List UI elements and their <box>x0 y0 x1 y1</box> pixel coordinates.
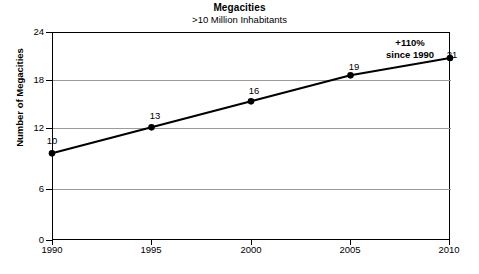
gridline-18 <box>53 80 451 81</box>
y-tick-mark-18 <box>46 80 52 81</box>
y-tick-mark-12 <box>46 128 52 129</box>
x-tick-label-1990: 1990 <box>22 244 82 255</box>
growth-annotation-line2: since 1990 <box>366 49 454 61</box>
point-label-2005: 19 <box>334 62 374 72</box>
point-label-1990: 10 <box>32 136 72 146</box>
growth-annotation-line1: +110% <box>366 37 454 49</box>
growth-annotation: +110% since 1990 <box>366 37 454 60</box>
y-tick-label-24: 24 <box>4 27 44 37</box>
point-label-1995: 13 <box>135 111 175 121</box>
y-tick-mark-24 <box>46 32 52 33</box>
y-tick-label-6: 6 <box>4 184 44 194</box>
megacities-line-chart: Megacities >10 Million Inhabitants Numbe… <box>0 0 479 274</box>
y-tick-label-18: 18 <box>4 75 44 85</box>
plot-area <box>52 32 450 240</box>
point-label-2000: 16 <box>234 86 274 96</box>
x-tick-label-2000: 2000 <box>221 244 281 255</box>
x-tick-label-1995: 1995 <box>121 244 181 255</box>
gridline-12 <box>53 128 451 129</box>
gridline-6 <box>53 189 451 190</box>
y-tick-label-12: 12 <box>4 123 44 133</box>
chart-subtitle: >10 Million Inhabitants <box>0 14 479 26</box>
x-tick-label-2010: 2010 <box>419 244 479 255</box>
y-axis-title: Number of Megacities <box>14 33 25 163</box>
y-tick-mark-6 <box>46 189 52 190</box>
chart-title-block: Megacities >10 Million Inhabitants <box>0 2 479 26</box>
x-tick-label-2005: 2005 <box>320 244 380 255</box>
chart-title: Megacities <box>0 2 479 14</box>
